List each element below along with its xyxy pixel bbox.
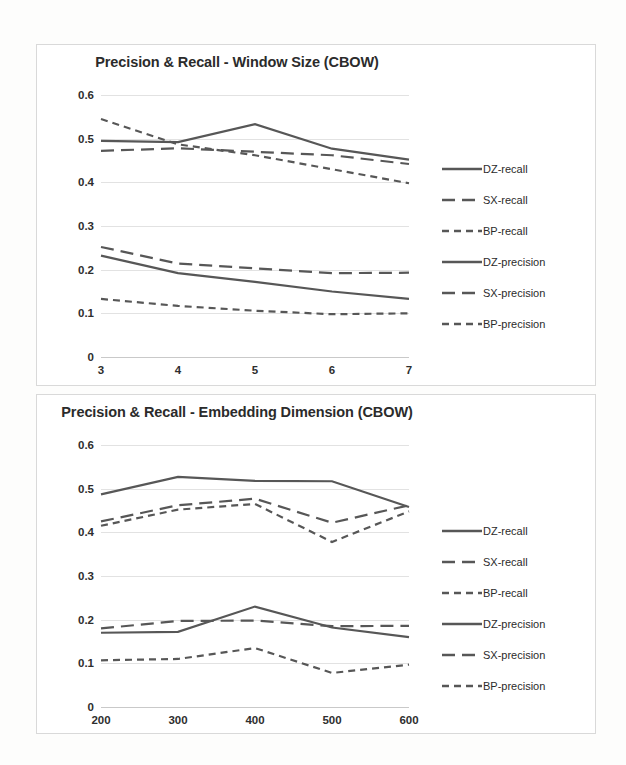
chart-title-window-size: Precision & Recall - Window Size (CBOW) [37, 54, 437, 70]
figure-container: Precision & Recall - Window Size (CBOW) … [0, 0, 626, 765]
y-axis-tick-label: 0 [88, 701, 94, 713]
series-line-dz-recall [101, 477, 409, 507]
legend-label: BP-precision [482, 318, 545, 330]
series-line-sx-recall [101, 499, 409, 523]
series-line-bp-precision [101, 648, 409, 673]
legend-label: SX-precision [482, 649, 545, 661]
gridline-y [101, 707, 409, 708]
y-axis-tick-label: 0.3 [78, 570, 94, 582]
x-axis-tick-label: 500 [322, 714, 341, 726]
x-axis-tick-label: 7 [406, 364, 412, 376]
y-axis-tick-label: 0.6 [78, 89, 94, 101]
legend-label: DZ-precision [482, 256, 545, 268]
legend-swatch-bp-precision [442, 319, 482, 329]
y-axis-tick-label: 0.4 [78, 526, 94, 538]
legend-label: DZ-recall [482, 163, 528, 175]
y-axis-tick-label: 0 [88, 351, 94, 363]
legend-item-dz-precision[interactable]: DZ-precision [442, 246, 592, 277]
legend-label: BP-recall [482, 225, 528, 237]
series-line-bp-precision [101, 299, 409, 314]
series-line-sx-precision [101, 621, 409, 629]
legend-item-sx-precision[interactable]: SX-precision [442, 277, 592, 308]
legend-item-sx-recall[interactable]: SX-recall [442, 546, 592, 577]
legend-item-dz-precision[interactable]: DZ-precision [442, 608, 592, 639]
legend-swatch-bp-recall [442, 226, 482, 236]
legend-window-size: DZ-recallSX-recallBP-recallDZ-precisionS… [442, 153, 592, 339]
y-axis-tick-label: 0.5 [78, 133, 94, 145]
series-line-bp-recall [101, 504, 409, 542]
legend-item-bp-precision[interactable]: BP-precision [442, 670, 592, 701]
legend-item-bp-precision[interactable]: BP-precision [442, 308, 592, 339]
legend-swatch-dz-recall [442, 526, 482, 536]
chart-title-embedding-dimension: Precision & Recall - Embedding Dimension… [37, 404, 437, 420]
legend-label: DZ-precision [482, 618, 545, 630]
legend-swatch-dz-recall [442, 164, 482, 174]
y-axis-tick-label: 0.2 [78, 264, 94, 276]
gridline-y [101, 357, 409, 358]
y-axis-tick-label: 0.2 [78, 614, 94, 626]
legend-swatch-bp-recall [442, 588, 482, 598]
legend-label: BP-recall [482, 587, 528, 599]
plot-area-window-size: 00.10.20.30.40.50.634567 [101, 95, 409, 357]
legend-label: BP-precision [482, 680, 545, 692]
legend-item-bp-recall[interactable]: BP-recall [442, 577, 592, 608]
legend-item-dz-recall[interactable]: DZ-recall [442, 153, 592, 184]
x-axis-tick-label: 5 [252, 364, 258, 376]
legend-swatch-sx-precision [442, 650, 482, 660]
y-axis-tick-label: 0.6 [78, 439, 94, 451]
legend-swatch-dz-precision [442, 257, 482, 267]
legend-swatch-sx-recall [442, 195, 482, 205]
series-layer-embedding-dimension [101, 445, 409, 707]
y-axis-tick-label: 0.1 [78, 307, 94, 319]
legend-item-sx-precision[interactable]: SX-precision [442, 639, 592, 670]
y-axis-tick-label: 0.1 [78, 657, 94, 669]
y-axis-tick-label: 0.5 [78, 483, 94, 495]
chart-panel-window-size: Precision & Recall - Window Size (CBOW) … [36, 44, 596, 386]
legend-embedding-dimension: DZ-recallSX-recallBP-recallDZ-precisionS… [442, 515, 592, 701]
legend-label: SX-recall [482, 556, 528, 568]
x-axis-tick-label: 300 [168, 714, 187, 726]
chart-panel-embedding-dimension: Precision & Recall - Embedding Dimension… [36, 394, 596, 734]
legend-label: SX-recall [482, 194, 528, 206]
legend-item-bp-recall[interactable]: BP-recall [442, 215, 592, 246]
legend-item-sx-recall[interactable]: SX-recall [442, 184, 592, 215]
x-axis-tick-label: 4 [175, 364, 181, 376]
legend-swatch-sx-recall [442, 557, 482, 567]
legend-swatch-dz-precision [442, 619, 482, 629]
series-layer-window-size [101, 95, 409, 357]
x-axis-tick-label: 400 [245, 714, 264, 726]
x-axis-tick-label: 6 [329, 364, 335, 376]
x-axis-tick-label: 200 [91, 714, 110, 726]
legend-label: SX-precision [482, 287, 545, 299]
series-line-dz-precision [101, 256, 409, 299]
x-axis-tick-label: 600 [399, 714, 418, 726]
y-axis-tick-label: 0.4 [78, 176, 94, 188]
series-line-sx-precision [101, 247, 409, 273]
series-line-bp-recall [101, 119, 409, 183]
plot-area-embedding-dimension: 00.10.20.30.40.50.6200300400500600 [101, 445, 409, 707]
legend-swatch-bp-precision [442, 681, 482, 691]
legend-label: DZ-recall [482, 525, 528, 537]
series-line-dz-precision [101, 607, 409, 638]
x-axis-tick-label: 3 [98, 364, 104, 376]
y-axis-tick-label: 0.3 [78, 220, 94, 232]
legend-item-dz-recall[interactable]: DZ-recall [442, 515, 592, 546]
legend-swatch-sx-precision [442, 288, 482, 298]
